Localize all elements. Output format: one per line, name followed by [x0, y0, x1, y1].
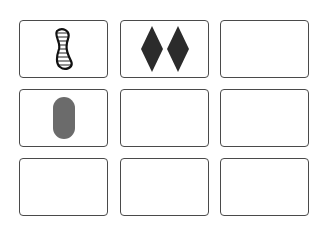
card-r2c2[interactable]: [120, 89, 209, 147]
card-r3c2[interactable]: [120, 158, 209, 216]
card-r1c2[interactable]: [120, 20, 209, 78]
solid-oval-icon: [52, 96, 76, 140]
card-r3c1[interactable]: [19, 158, 108, 216]
card-r1c3[interactable]: [220, 20, 309, 78]
card-r1c1[interactable]: [19, 20, 108, 78]
card-r3c3[interactable]: [220, 158, 309, 216]
card-r2c3[interactable]: [220, 89, 309, 147]
striped-squiggle-icon: [53, 27, 75, 71]
two-solid-diamonds-icon: [140, 25, 190, 73]
card-r2c1[interactable]: [19, 89, 108, 147]
